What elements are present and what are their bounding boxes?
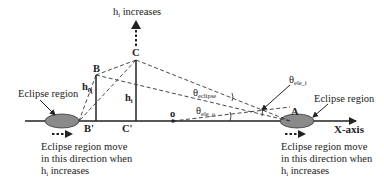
theta-eclipse-label: θeclipse bbox=[193, 87, 216, 102]
height-hij-label: hij bbox=[82, 81, 92, 96]
left-eclipse-region-shape bbox=[45, 114, 79, 128]
theta-ele-o-label: θele_o bbox=[196, 105, 215, 120]
right-eclipse-region-label: Eclipse region bbox=[314, 93, 374, 105]
point-a-label: A bbox=[291, 106, 299, 118]
left-eclipse-region-label: Eclipse region bbox=[18, 88, 78, 100]
point-o-label: o bbox=[170, 108, 175, 120]
eclipse-geometry-diagram: hi increases C B B' C' o A hij hi θeclip… bbox=[0, 0, 384, 185]
left-move-note: Eclipse region move in this direction wh… bbox=[41, 141, 132, 180]
top-increase-label: hi increases bbox=[113, 6, 161, 21]
point-b-prime-label: B' bbox=[84, 123, 94, 135]
point-c-label: C bbox=[132, 47, 140, 59]
point-c-prime-label: C' bbox=[122, 123, 133, 135]
theta-ele-i-label: θele_i bbox=[289, 74, 307, 89]
right-move-note: Eclipse region move in this direction wh… bbox=[281, 141, 372, 180]
up-arrow-head bbox=[131, 20, 141, 29]
height-hi-label: hi bbox=[125, 92, 133, 107]
point-b-label: B bbox=[93, 63, 100, 75]
x-axis-label: X-axis bbox=[334, 123, 364, 135]
